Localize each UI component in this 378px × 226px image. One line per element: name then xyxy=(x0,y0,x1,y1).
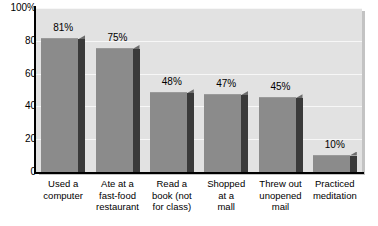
x-axis-category-label: Read a book (not for class) xyxy=(145,178,199,213)
bar-top-face xyxy=(259,94,303,98)
x-axis-category-label: Threw out unopened mail xyxy=(253,178,307,213)
bar-front-face xyxy=(259,97,296,172)
bar xyxy=(150,93,194,172)
x-axis-category-label: Ate at a fast-food restaurant xyxy=(90,178,144,213)
bar xyxy=(41,39,85,172)
bar-front-face xyxy=(313,155,350,172)
bar-top-face xyxy=(96,45,140,49)
y-axis-tick-label: 0 xyxy=(2,167,36,177)
bar-side-face xyxy=(133,49,140,172)
bar-front-face xyxy=(150,92,187,172)
bar xyxy=(96,49,140,172)
bar-body xyxy=(96,49,140,172)
bar-value-label: 48% xyxy=(150,77,194,87)
bar-side-face xyxy=(296,98,303,172)
bar-body xyxy=(204,95,248,172)
bar-body xyxy=(41,39,85,172)
y-axis-tick-label: 80 xyxy=(2,36,36,46)
x-axis-category-label: Used a computer xyxy=(36,178,90,201)
bar xyxy=(259,98,303,172)
bar-value-label: 81% xyxy=(41,23,85,33)
y-axis-tick-label: 60 xyxy=(2,69,36,79)
bar-top-face xyxy=(41,35,85,39)
bar xyxy=(204,95,248,172)
bar-value-label: 10% xyxy=(313,140,357,150)
bar-front-face xyxy=(96,48,133,172)
bar-side-face xyxy=(241,95,248,172)
bar-body xyxy=(313,156,357,172)
y-axis-tick-label: 20 xyxy=(2,134,36,144)
bar-chart: 020406080100% 81%75%48%47%45%10% Used a … xyxy=(0,0,378,226)
bar-value-label: 45% xyxy=(259,82,303,92)
y-axis-tick-label: 100% xyxy=(2,3,36,13)
bar-value-label: 47% xyxy=(204,79,248,89)
x-axis-line xyxy=(34,172,364,174)
gridline xyxy=(36,8,362,9)
bar-side-face xyxy=(187,93,194,172)
bar-body xyxy=(150,93,194,172)
bar xyxy=(313,156,357,172)
bar-front-face xyxy=(41,38,78,172)
bar-value-label: 75% xyxy=(96,33,140,43)
bar-top-face xyxy=(313,152,357,156)
x-axis-category-label: Practiced meditation xyxy=(308,178,362,201)
bar-top-face xyxy=(150,89,194,93)
bar-body xyxy=(259,98,303,172)
x-axis-category-label: Shopped at a mall xyxy=(199,178,253,213)
y-axis-line xyxy=(34,6,36,174)
y-axis-tick-label: 40 xyxy=(2,101,36,111)
bar-top-face xyxy=(204,91,248,95)
bar-side-face xyxy=(78,39,85,172)
bar-front-face xyxy=(204,94,241,172)
bar-side-face xyxy=(350,156,357,172)
